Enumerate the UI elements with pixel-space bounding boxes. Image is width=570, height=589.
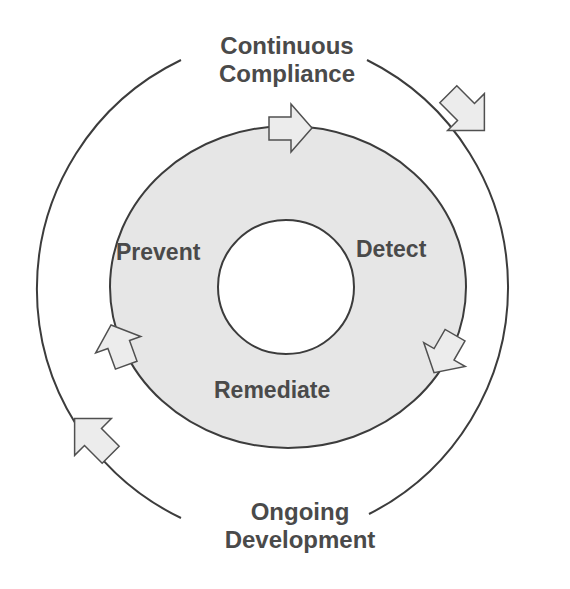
compliance-text: Compliance xyxy=(167,60,407,88)
stage-detect-label: Detect xyxy=(356,235,426,263)
continuous-text: Continuous xyxy=(167,32,407,60)
stage-remediate-label: Remediate xyxy=(214,376,330,404)
outer-cycle-top-label: Continuous Compliance xyxy=(167,32,407,88)
outer-cycle-bottom-label: Ongoing Development xyxy=(180,498,420,554)
development-text: Development xyxy=(180,526,420,554)
ongoing-text: Ongoing xyxy=(180,498,420,526)
arrow-down-right-icon xyxy=(430,76,503,149)
stage-prevent-label: Prevent xyxy=(116,238,200,266)
